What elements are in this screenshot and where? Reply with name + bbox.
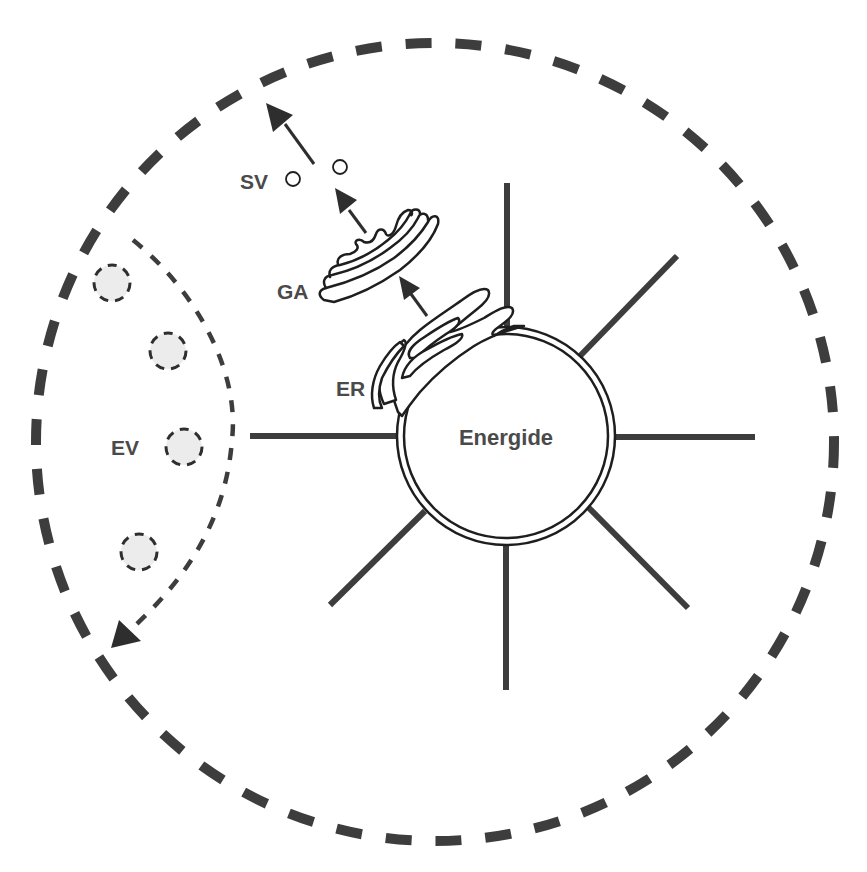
- endocytic-vesicle: [94, 265, 130, 301]
- microtubule-top-right: [580, 256, 677, 356]
- secretory-vesicle: [333, 160, 347, 174]
- endocytic-vesicle: [150, 333, 186, 369]
- golgi-label: GA: [277, 280, 309, 303]
- sv-label: SV: [240, 170, 268, 193]
- er-label: ER: [336, 377, 365, 400]
- golgi-apparatus: [320, 210, 439, 303]
- arrow-golgi-to-sv: [335, 188, 366, 233]
- endocytic-vesicle: [121, 534, 157, 570]
- endocytic-vesicles: [94, 265, 202, 570]
- endocytic-arrowhead: [111, 620, 141, 648]
- microtubule-bottom-left: [330, 511, 425, 605]
- secretory-vesicle: [286, 172, 300, 186]
- endocytic-vesicle: [166, 429, 202, 465]
- ev-label: EV: [111, 436, 139, 459]
- microtubule-bottom-right: [588, 507, 688, 608]
- nucleus-label: Energide: [459, 425, 553, 450]
- arrow-sv-to-membrane: [266, 103, 314, 164]
- arrow-er-to-golgi: [399, 276, 427, 316]
- energide-diagram: Energide ER GA SV: [0, 0, 867, 872]
- secretory-vesicles: [286, 160, 347, 186]
